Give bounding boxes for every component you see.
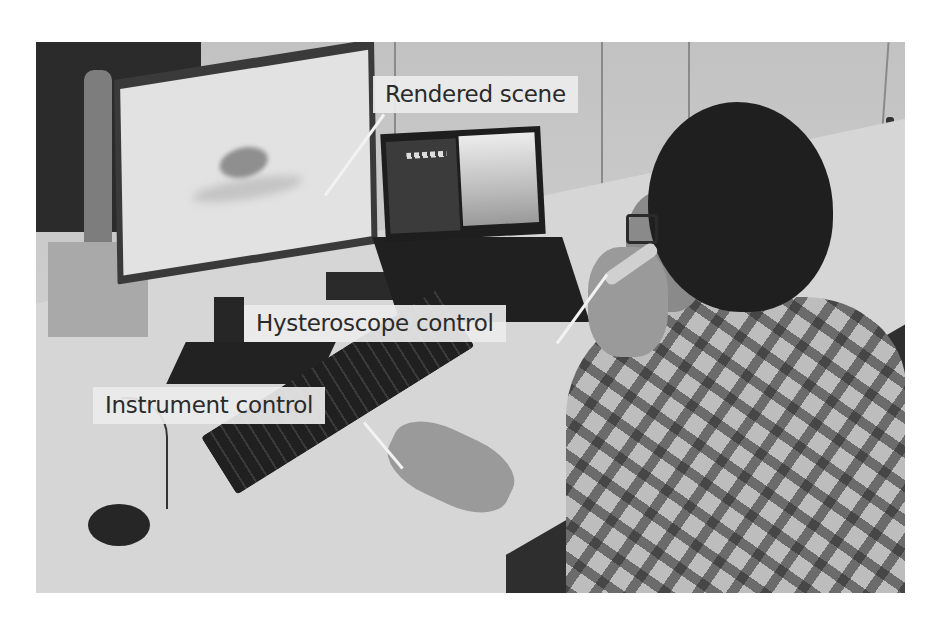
person-hair bbox=[648, 102, 833, 312]
glasses bbox=[626, 214, 658, 244]
main-monitor bbox=[114, 42, 378, 284]
laptop-toolbar-icons bbox=[406, 151, 446, 159]
mouse bbox=[88, 504, 150, 546]
callout-hysteroscope-control: Hysteroscope control bbox=[244, 305, 506, 342]
laptop-screen bbox=[380, 126, 545, 242]
callout-instrument-control: Instrument control bbox=[93, 387, 325, 424]
callout-rendered-scene: Rendered scene bbox=[373, 76, 578, 113]
rendered-scene-display bbox=[120, 50, 371, 276]
secondary-monitor-stand bbox=[84, 70, 112, 260]
laptop-viewport bbox=[458, 132, 539, 226]
rendered-polyp bbox=[220, 144, 269, 182]
laptop-editor-panel bbox=[386, 138, 461, 234]
